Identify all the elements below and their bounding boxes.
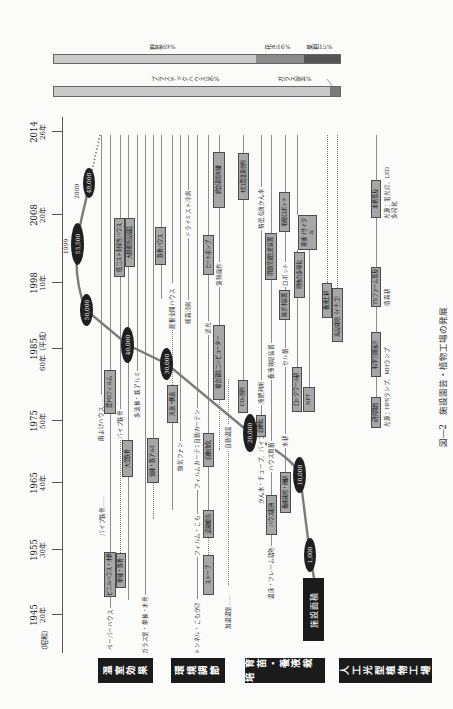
box-research-start: 研究開始 — [371, 397, 381, 428]
label-hotbed-frame: 温床・フレーム踏熱 — [267, 546, 275, 600]
bar-segment-fruit — [304, 55, 340, 63]
box-roof-side-vent: 天窓・側窓 — [167, 385, 178, 423]
crop-share-bar — [53, 54, 341, 64]
area-milestone-oval: 50,000 — [80, 294, 93, 326]
box-large-steel: 大型鉄骨 — [122, 440, 133, 477]
label-film-komo: フィルム・こも — [193, 514, 201, 557]
label-plastic-house-share: プラスチックハウス96% — [152, 74, 219, 83]
category-nursery-hydroponics: 育苗・養液栽培 — [245, 658, 325, 683]
box-grafting-device: 接ぎ木装置 — [279, 290, 290, 320]
bar-segment-plastic-house — [54, 87, 330, 96]
label-fruit-share: 果樹15% — [307, 42, 332, 51]
label-glass-house-share: ガラス室4% — [278, 74, 312, 83]
figure-caption: 図―2 施設園芸・植物工場の発展 — [436, 307, 448, 447]
label-liquid-fertilizer: 液肥利用 — [257, 380, 265, 405]
box-nft: NFT — [303, 387, 315, 412]
box-fertigation: 養液土耕 — [322, 283, 332, 318]
label-light-source-hps: 光源：HPSランプ、MHランプ — [383, 346, 391, 428]
area-recent-oval: 49,000 — [83, 168, 95, 198]
label-vegetables-share: 野菜69% — [150, 42, 175, 51]
bar-segment-glass-house — [330, 87, 340, 96]
label-tunnel-cover: トンネル・こもかけ — [193, 601, 201, 655]
label-aeroponics: 噴霧耕 — [383, 288, 391, 307]
area-peak-oval: 53,500 — [71, 223, 84, 265]
category-label: 環境調節 — [175, 664, 221, 678]
label-flowers-share: 花き16% — [265, 42, 290, 51]
box-integrated-environment-control: 統合環境制御 — [213, 152, 225, 208]
box-low-cost-house: 低コスト耐候性ハウス — [114, 218, 125, 277]
label-heated-house: 加温温室…… — [224, 594, 232, 630]
label-pipe-steel-2: パイプ鉄骨 — [116, 409, 124, 440]
category-label: 温室効果 — [103, 664, 149, 678]
category-label: 育苗・養液栽培 — [245, 657, 325, 685]
box-po-film: 農POフィルム — [104, 370, 116, 414]
label-film-curtain: フィルムカーテン — [193, 442, 201, 490]
label-shading: 遮光 — [204, 321, 212, 335]
label-multi-tier: 多段化 — [390, 201, 398, 220]
category-greenhouse: 温室効果 — [98, 658, 153, 683]
area-title-box: 施設面積 — [303, 578, 324, 641]
box-rockwool-culture: ロックウール耕 — [292, 367, 302, 412]
label-open-roof-house: 屋根全開ハウス — [168, 287, 176, 330]
box-stove: ストーブ — [203, 555, 214, 595]
box-warm-air-heating: 温風暖房 — [203, 510, 214, 538]
label-precision-drip: 精密点滴かん水 — [257, 187, 265, 230]
area-milestone-oval: 20,000 — [243, 414, 257, 452]
box-ts-farm: TSファーム普及 — [371, 267, 381, 307]
label-auto-curtain: 自動カーテン — [193, 408, 201, 445]
box-heat-pump: ヒートポンプ — [203, 235, 214, 275]
box-environment-computer: 複合環境コンピューター — [213, 325, 225, 400]
area-milestone-oval: 10,000 — [293, 457, 306, 493]
area-milestone-oval: 1,000 — [304, 538, 316, 572]
label-multi-span: 多連棟・鉄アルミ — [133, 371, 141, 419]
box-automation: 自動化 — [256, 415, 266, 437]
box-large-scale-facility: 大規模施設園芸 — [125, 218, 135, 267]
recent-year-label: 2009 — [73, 184, 80, 199]
box-steel-house: 鉄骨ハウス — [155, 227, 166, 265]
box-vinyl-house-wood: ビニルハウス・木骨 — [104, 552, 116, 597]
label-pipe-steel: パイプ鉄骨…… — [98, 495, 106, 537]
label-robot: ロボット — [281, 262, 289, 287]
label-remote-operation: 遠隔操作 — [215, 262, 223, 287]
category-plant-factory: 人工光型植物工場 — [339, 658, 432, 683]
bar-segment-vegetables — [54, 55, 256, 63]
box-full-spread: 本格普及 — [371, 180, 381, 218]
box-zero-co2-difference: ゼロ濃度差施用 — [238, 153, 249, 200]
box-elevated-strawberry: 高設栽培（イチゴ） — [332, 288, 343, 342]
facility-horticulture-timeline-figure: 194520年 195530年 196540年 197550年 198560年（… — [0, 0, 453, 709]
label-fog-cooling: 細霧冷房 — [184, 300, 192, 325]
label-auto-temp-humidity: 自動温湿 — [224, 425, 232, 450]
box-co2-application: CO₂施用 — [238, 380, 248, 413]
label-paper-house: ペーパーハウス — [106, 608, 114, 651]
box-multi-span-steel-aluminum: 連棟・鉄アルミ — [147, 438, 159, 483]
box-closed-seedling-system: 閉鎖型苗生産装置 — [265, 233, 277, 280]
label-ventilation-fan: 換気ファン — [176, 441, 184, 472]
label-glass-house: ガラス室・単棟・木骨 — [141, 595, 149, 655]
box-single-span-steel: 単棟・鉄骨 — [116, 553, 126, 588]
label-water-culture: 水耕 — [281, 434, 289, 448]
label-house-nursery: ハウス育苗 — [267, 441, 275, 472]
category-environment-control: 環境調節 — [171, 658, 225, 683]
area-milestone-oval: 30,000 — [160, 348, 173, 380]
box-auto-ventilation: 自動換気 — [203, 433, 214, 467]
structure-share-bar — [53, 86, 341, 97]
label-dry-mist-cooling: ドライミスト冷房 — [184, 190, 192, 238]
box-gravel-culture: 養液栽培・礫耕 — [280, 472, 291, 513]
box-drainage-recycling: 排液リサイクル — [298, 215, 317, 250]
box-media-diversification: 培地の多様化 — [294, 252, 305, 298]
box-harvest-robot: 収穫ロボット — [279, 192, 290, 232]
label-cell-seedling: セル苗 — [281, 348, 289, 367]
label-irrigation-tube: かん水・チューブ、パイプ — [257, 433, 265, 505]
category-label: 人工光型植物工場 — [340, 664, 432, 678]
area-milestone-oval: 40,000 — [121, 327, 134, 363]
label-hydroponic-devices: 養液栽培装置 — [267, 343, 275, 380]
box-science-expo: 科学万博展示 — [371, 332, 381, 377]
bar-segment-flowers — [256, 55, 304, 63]
peak-year-label: 1999 — [62, 239, 69, 254]
box-house-electric-heating: ハウス電熱 — [266, 495, 277, 535]
